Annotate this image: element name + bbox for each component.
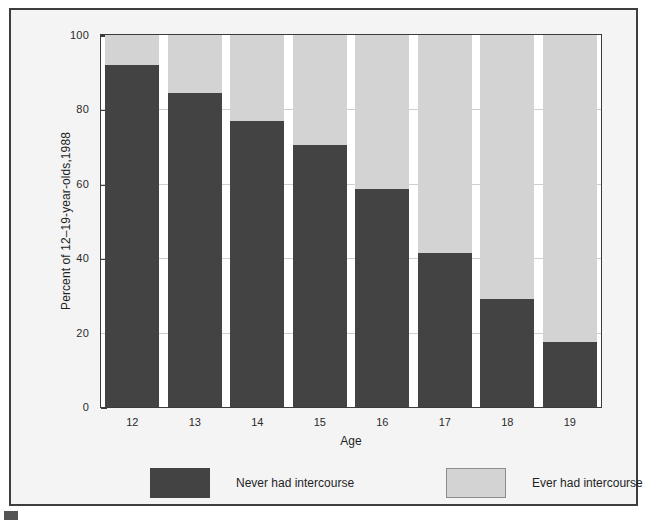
x-axis-tick-label: 17 <box>439 416 451 428</box>
legend-item-never: Never had intercourse <box>150 468 354 498</box>
figure-frame: Percent of 12–19-year-olds,1988 02040608… <box>9 8 638 506</box>
bar-group-18: 18 <box>476 35 539 407</box>
x-axis-title: Age <box>100 434 602 448</box>
x-axis-tick-label: 12 <box>126 416 138 428</box>
bar-lower-never-had-intercourse <box>168 93 222 407</box>
y-axis-tick-label: 0 <box>83 401 101 413</box>
x-axis-tick-label: 18 <box>501 416 513 428</box>
bar-lower-never-had-intercourse <box>355 189 409 407</box>
light-swatch-icon <box>446 468 506 498</box>
x-axis-tick-label: 16 <box>376 416 388 428</box>
y-axis-tick-label: 80 <box>76 103 101 115</box>
bar-upper-ever-had-intercourse <box>418 35 472 407</box>
y-axis-tick-label: 40 <box>76 252 101 264</box>
bar-upper-ever-had-intercourse <box>168 35 222 407</box>
bar-group-14: 14 <box>226 35 289 407</box>
bar-group-19: 19 <box>539 35 602 407</box>
corner-mark <box>4 511 18 520</box>
bar-group-15: 15 <box>289 35 352 407</box>
y-axis-tick-label: 100 <box>70 29 101 41</box>
bar-group-12: 12 <box>101 35 164 407</box>
bar-lower-never-had-intercourse <box>418 253 472 407</box>
y-axis-tick-label: 60 <box>76 178 101 190</box>
x-axis-tick-label: 14 <box>251 416 263 428</box>
bar-upper-ever-had-intercourse <box>543 35 597 407</box>
bar-upper-ever-had-intercourse <box>293 35 347 407</box>
chart-container: Percent of 12–19-year-olds,1988 02040608… <box>11 10 636 504</box>
x-axis-tick-label: 19 <box>564 416 576 428</box>
dark-swatch-icon <box>150 468 210 498</box>
x-axis-tick-label: 13 <box>189 416 201 428</box>
bar-upper-ever-had-intercourse <box>480 35 534 407</box>
bar-series-group: 1213141516171819 <box>101 35 601 407</box>
plot-area: 020406080100 1213141516171819 <box>100 34 602 408</box>
legend-label-never: Never had intercourse <box>236 476 354 490</box>
x-axis-tick-label: 15 <box>314 416 326 428</box>
y-axis-tick-label: 20 <box>76 327 101 339</box>
chart-legend: Never had intercourse Ever had intercour… <box>100 465 620 501</box>
bar-upper-ever-had-intercourse <box>230 35 284 407</box>
legend-label-ever: Ever had intercourse <box>532 476 643 490</box>
bar-upper-ever-had-intercourse <box>105 35 159 407</box>
bar-upper-ever-had-intercourse <box>355 35 409 407</box>
bar-lower-never-had-intercourse <box>230 121 284 407</box>
legend-item-ever: Ever had intercourse <box>446 468 643 498</box>
y-axis-title: Percent of 12–19-year-olds,1988 <box>59 34 75 408</box>
bar-group-13: 13 <box>164 35 227 407</box>
bar-group-17: 17 <box>414 35 477 407</box>
tick-mark-icon <box>101 407 107 409</box>
bar-lower-never-had-intercourse <box>543 342 597 407</box>
bar-lower-never-had-intercourse <box>480 299 534 407</box>
bar-lower-never-had-intercourse <box>293 145 347 407</box>
bar-lower-never-had-intercourse <box>105 65 159 407</box>
bar-group-16: 16 <box>351 35 414 407</box>
